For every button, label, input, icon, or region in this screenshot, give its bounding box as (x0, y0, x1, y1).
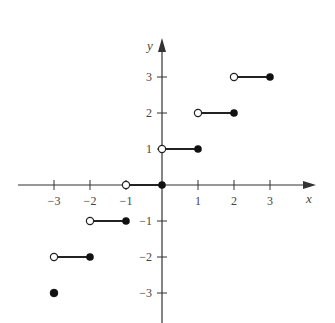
closed-endpoint (266, 73, 274, 81)
x-tick-label: −2 (84, 194, 97, 208)
y-axis-arrow-icon (158, 38, 166, 52)
open-endpoint (194, 109, 201, 116)
closed-endpoint (122, 217, 130, 225)
open-endpoint (158, 145, 165, 152)
open-endpoint (50, 253, 57, 260)
x-tick-label: 1 (195, 194, 201, 208)
x-axis-label: x (305, 191, 312, 206)
closed-endpoint (230, 109, 238, 117)
x-tick-label: 2 (231, 194, 237, 208)
x-tick-label: −1 (120, 194, 133, 208)
closed-endpoint (194, 145, 202, 153)
x-axis-arrow-icon (303, 181, 316, 189)
isolated-point (50, 289, 58, 297)
closed-endpoint (158, 181, 166, 189)
x-tick-label: 3 (267, 194, 273, 208)
y-tick-label: −2 (139, 250, 152, 264)
y-tick-label: −1 (139, 214, 152, 228)
closed-endpoint (86, 253, 94, 261)
y-axis-label: y (145, 38, 153, 53)
open-endpoint (86, 217, 93, 224)
open-endpoint (230, 73, 237, 80)
y-tick-label: −3 (139, 286, 152, 300)
axes: xy (18, 38, 316, 323)
y-tick-label: 3 (146, 70, 152, 84)
open-endpoint (122, 181, 129, 188)
y-tick-label: 2 (146, 106, 152, 120)
step-function-plot: xy −3−2−1123321−1−2−3 (0, 0, 335, 323)
y-tick-label: 1 (146, 142, 152, 156)
x-tick-label: −3 (48, 194, 61, 208)
